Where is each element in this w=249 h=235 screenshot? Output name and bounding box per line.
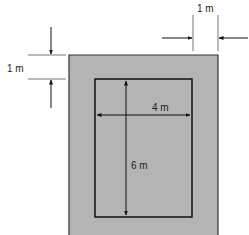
outer-border-region [69,55,218,235]
right-margin-label: 1 m [197,3,214,14]
diagram-canvas: 1 m 1 m 4 m 6 m [0,0,249,235]
inner-width-label: 4 m [152,102,169,113]
inner-height-label: 6 m [131,160,148,171]
right-margin-dimension: 1 m [162,3,248,51]
top-margin-dimension: 1 m [7,27,66,108]
top-margin-label: 1 m [7,63,24,74]
